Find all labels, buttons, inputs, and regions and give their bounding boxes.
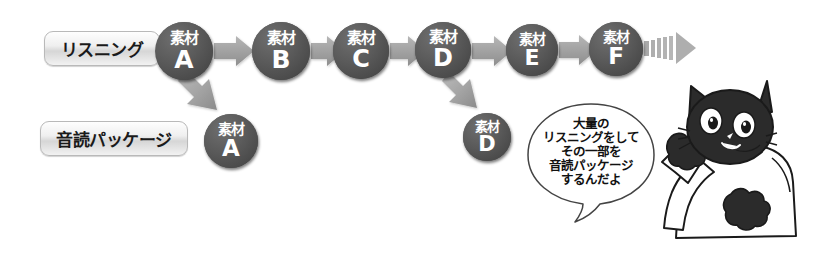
row-label-listening-text: リスニング <box>61 36 144 61</box>
flow-arrow-a-to-b <box>214 36 254 66</box>
node-e-letter: E <box>524 47 539 69</box>
row-label-listening: リスニング <box>44 31 160 66</box>
node-a-kanji: 素材 <box>170 31 198 46</box>
node-a2-letter: A <box>222 137 240 160</box>
row-label-ondoku-package: 音読パッケージ <box>40 121 188 156</box>
speech-bubble-line-4: 音読パッケージ <box>529 159 653 173</box>
node-d: 素材 D <box>415 22 471 78</box>
node-a2: 素材 A <box>204 114 258 168</box>
flow-arrow-continues-icon <box>644 32 696 64</box>
node-a2-kanji: 素材 <box>218 122 244 136</box>
node-c: 素材 C <box>333 23 389 79</box>
node-f-letter: F <box>608 45 624 68</box>
cat-character <box>662 81 796 238</box>
speech-bubble-line-3: その一部を <box>529 145 653 159</box>
node-b-letter: B <box>271 47 290 72</box>
node-a: 素材 A <box>155 22 213 80</box>
speech-bubble-line-1: 大量の <box>529 117 653 131</box>
speech-bubble-line-5: するんだよ <box>529 173 653 187</box>
node-d-letter: D <box>433 46 453 70</box>
speech-bubble-text: 大量の リスニングをして その一部を 音読パッケージ するんだよ <box>529 117 653 187</box>
node-b-kanji: 素材 <box>267 31 295 46</box>
node-c-letter: C <box>352 47 370 71</box>
diagram-canvas: リスニング 音読パッケージ 素材 A 素材 B 素材 C 素材 D 素材 E 素… <box>0 0 816 264</box>
node-c-kanji: 素材 <box>347 31 375 46</box>
node-d2: 素材 D <box>463 113 511 161</box>
node-e-kanji: 素材 <box>519 32 545 46</box>
row-label-ondoku-package-text: 音読パッケージ <box>56 126 172 151</box>
node-e: 素材 E <box>506 24 558 76</box>
speech-bubble-line-2: リスニングをして <box>529 131 653 145</box>
node-a-letter: A <box>174 47 193 72</box>
node-d2-kanji: 素材 <box>475 120 499 133</box>
node-f: 素材 F <box>589 22 643 76</box>
node-d-kanji: 素材 <box>429 30 457 45</box>
node-d2-letter: D <box>478 134 495 155</box>
node-b: 素材 B <box>252 22 310 80</box>
node-f-kanji: 素材 <box>603 30 629 44</box>
